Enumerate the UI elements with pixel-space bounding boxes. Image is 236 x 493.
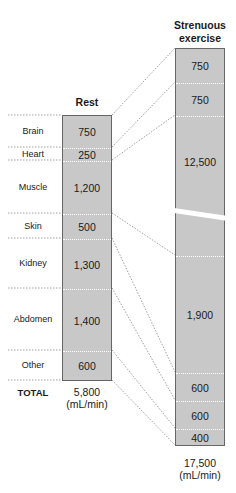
exercise-other-value: 400: [176, 429, 224, 445]
exercise-abdomen-value: 600: [176, 401, 224, 429]
exercise-header-line1: Strenuous: [165, 19, 235, 32]
rest-skin-value: 500: [63, 214, 111, 239]
exercise-total-value: 17,500: [165, 457, 235, 469]
label-muscle: Muscle: [4, 160, 62, 213]
exercise-bar: 750 750 12,500 1,900 600 600 400: [175, 48, 225, 446]
rest-kidney-value: 1,300: [63, 239, 111, 289]
exercise-skin-value: 1,900: [176, 256, 224, 373]
exercise-header-line2: exercise: [165, 32, 235, 45]
rest-other-value: 600: [63, 351, 111, 380]
rest-header: Rest: [62, 96, 112, 109]
rest-total: 5,800 (mL/min): [52, 386, 122, 410]
label-kidney: Kidney: [4, 238, 62, 288]
rest-total-value: 5,800: [52, 386, 122, 398]
exercise-heart-value: 750: [176, 83, 224, 116]
label-abdomen: Abdomen: [4, 288, 62, 350]
exercise-muscle-value: 12,500: [176, 116, 224, 206]
rest-brain-value: 750: [63, 116, 111, 148]
rest-muscle-value: 1,200: [63, 161, 111, 214]
exercise-kidney-value: 600: [176, 373, 224, 401]
label-other: Other: [4, 350, 62, 380]
exercise-header: Strenuous exercise: [165, 19, 235, 45]
label-skin: Skin: [4, 213, 62, 238]
exercise-brain-value: 750: [176, 49, 224, 83]
label-heart: Heart: [4, 147, 62, 160]
exercise-total-unit: (mL/min): [165, 469, 235, 481]
axis-break-mark: [170, 198, 232, 228]
rest-abdomen-value: 1,400: [63, 289, 111, 351]
exercise-total: 17,500 (mL/min): [165, 457, 235, 481]
rest-heart-value: 250: [63, 148, 111, 161]
rest-bar: 750 250 1,200 500 1,300 1,400 600: [62, 115, 112, 381]
label-brain: Brain: [4, 115, 62, 147]
rest-total-unit: (mL/min): [52, 398, 122, 410]
